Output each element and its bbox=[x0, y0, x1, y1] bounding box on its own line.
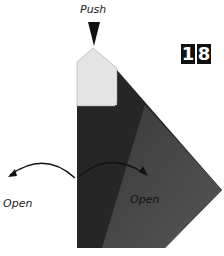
push-arrow-icon bbox=[88, 22, 100, 46]
open-left-label: Open bbox=[3, 197, 32, 210]
open-right-label: Open bbox=[130, 193, 159, 206]
push-label: Push bbox=[80, 3, 106, 16]
open-left-arrow-icon bbox=[10, 163, 75, 178]
arrowhead-icon bbox=[8, 169, 17, 177]
step-digit: 8 bbox=[197, 44, 211, 64]
origami-diagram bbox=[0, 0, 224, 256]
step-number-badge: 1 8 bbox=[181, 44, 211, 64]
paper-light-flap bbox=[77, 48, 117, 106]
step-digit: 1 bbox=[181, 44, 195, 64]
